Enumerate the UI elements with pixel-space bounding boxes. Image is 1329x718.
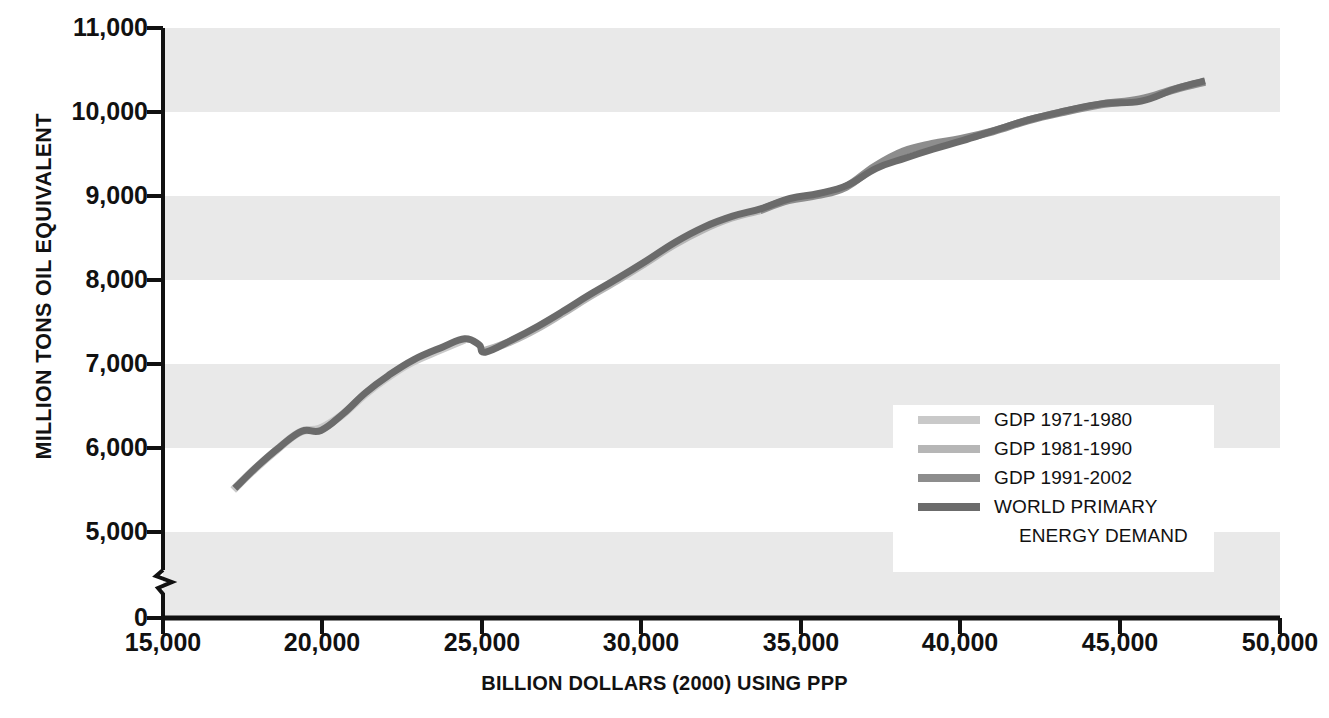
- y-tick-label-8000: 8,000: [8, 265, 148, 294]
- x-tick-label-50000: 50,000: [1190, 628, 1329, 657]
- legend-item-gdp-1971-1980: GDP 1971-1980: [893, 405, 1214, 434]
- y-tick-label-6000: 6,000: [8, 433, 148, 462]
- y-axis: [156, 28, 172, 618]
- y-tick-label-5000: 5,000: [8, 517, 148, 546]
- legend-swatch-icon: [918, 474, 980, 482]
- band-8000-9000: [163, 196, 1280, 280]
- x-axis-label: BILLION DOLLARS (2000) USING PPP: [0, 672, 1329, 695]
- legend-swatch-icon: [918, 445, 980, 453]
- legend-label: GDP 1971-1980: [994, 409, 1132, 431]
- x-tick-label-45000: 45,000: [1030, 628, 1210, 657]
- x-tick-label-25000: 25,000: [392, 628, 572, 657]
- legend-label: GDP 1991-2002: [994, 467, 1132, 489]
- legend-label: GDP 1981-1990: [994, 438, 1132, 460]
- y-tick-label-9000: 9,000: [8, 181, 148, 210]
- x-tick-label-40000: 40,000: [870, 628, 1050, 657]
- x-tick-label-35000: 35,000: [711, 628, 891, 657]
- legend-swatch-icon: [918, 503, 980, 511]
- x-tick-label-15000: 15,000: [73, 628, 253, 657]
- y-tick-label-11000: 11,000: [8, 13, 148, 42]
- chart-legend: GDP 1971-1980 GDP 1981-1990 GDP 1991-200…: [893, 405, 1214, 572]
- x-tick-label-30000: 30,000: [551, 628, 731, 657]
- legend-item-continuation: ENERGY DEMAND: [893, 521, 1214, 550]
- legend-item-world-primary-energy-demand: WORLD PRIMARY: [893, 492, 1214, 521]
- chart-plot-area: [0, 0, 1329, 718]
- legend-label: WORLD PRIMARY: [994, 496, 1158, 518]
- legend-swatch-icon: [918, 416, 980, 424]
- x-tick-label-20000: 20,000: [232, 628, 412, 657]
- chart-container: MILLION TONS OIL EQUIVALENT BILLION DOLL…: [0, 0, 1329, 718]
- y-tick-marks: [147, 28, 163, 618]
- legend-item-gdp-1991-2002: GDP 1991-2002: [893, 463, 1214, 492]
- y-tick-label-10000: 10,000: [8, 97, 148, 126]
- legend-item-gdp-1981-1990: GDP 1981-1990: [893, 434, 1214, 463]
- y-tick-label-7000: 7,000: [8, 349, 148, 378]
- legend-label-continuation: ENERGY DEMAND: [1019, 525, 1188, 547]
